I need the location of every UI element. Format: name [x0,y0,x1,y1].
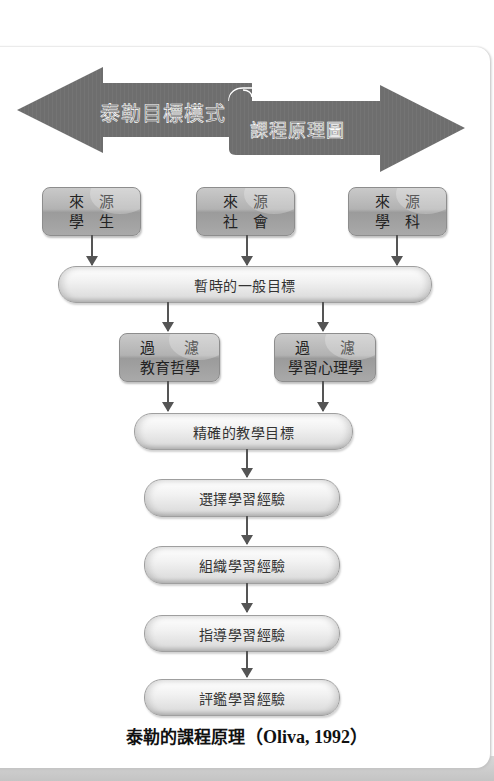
source-label: 源 [99,193,114,211]
step-select-pill: 選擇學習經驗 [144,479,340,517]
tentative-objectives-pill: 暫時的一般目標 [58,266,432,303]
source-value: 學 [375,213,390,231]
filter-value: 學習心理學 [288,359,363,377]
source-label: 源 [253,193,268,211]
arrow-down-icon [322,302,324,331]
source-label: 源 [405,193,420,211]
caption-citation: （Oliva, 1992） [245,727,368,747]
filter-box-psychology: 過濾 學習心理學 [274,333,376,382]
source-value: 科 [405,213,420,231]
step-evaluate-pill: 評鑑學習經驗 [144,679,340,716]
source-label: 來 [69,193,84,211]
arrow-down-icon [167,381,169,411]
figure-caption: 泰勒的課程原理（Oliva, 1992） [0,722,494,748]
arrow-down-icon [246,583,248,612]
precise-objectives-pill: 精確的教學目標 [134,413,353,450]
source-value: 會 [253,213,268,231]
source-label: 來 [375,193,390,211]
step-organize-pill: 組織學習經驗 [144,546,340,584]
arrow-down-icon [246,235,248,265]
arrow-down-icon [322,381,324,411]
source-value: 社 [223,213,238,231]
step-guide-pill: 指導學習經驗 [144,615,340,652]
caption-title: 泰勒的課程原理 [126,727,245,747]
source-box-student: 來源 學生 [42,187,141,236]
filter-box-philosophy: 過濾 教育哲學 [119,333,220,382]
source-box-subject: 來源 學科 [348,187,447,236]
filter-value: 教育哲學 [140,359,200,377]
filter-label: 濾 [184,339,199,357]
source-label: 來 [223,193,238,211]
right-arrow-label: 課程原理圖 [250,116,345,142]
arrow-down-icon [246,516,248,544]
filter-label: 過 [295,339,310,357]
arrow-down-icon [396,235,398,265]
source-value: 學 [69,213,84,231]
left-arrow-label: 泰勒目標模式 [100,98,226,127]
arrow-down-icon [246,449,248,477]
filter-label: 濾 [340,339,355,357]
arrow-down-icon [91,235,93,265]
arrow-down-icon [167,302,169,331]
arrow-down-icon [246,651,248,677]
source-box-society: 來源 社會 [196,187,295,236]
title-banner [0,0,494,190]
source-value: 生 [99,213,114,231]
filter-label: 過 [140,339,155,357]
